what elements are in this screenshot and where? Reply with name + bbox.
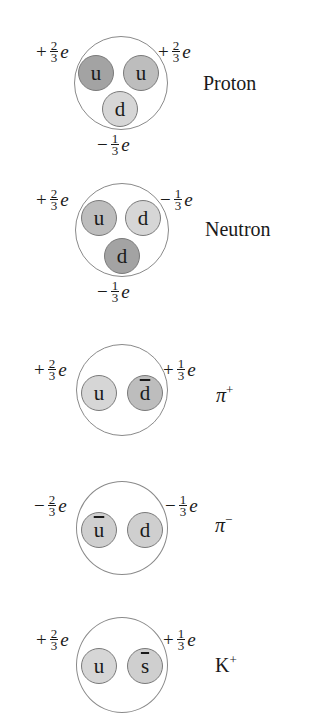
- particle-name: Neutron: [205, 218, 271, 241]
- charge-label: + 23 e: [34, 358, 67, 381]
- pi-minus-diagram: u d − 23 e − 13 e π−: [0, 450, 334, 580]
- k-plus-diagram: u s + 23 e + 13 e K+: [0, 580, 334, 724]
- quark-u: u: [123, 55, 159, 91]
- charge-label: + 13 e: [163, 358, 196, 381]
- quark-d: d: [104, 238, 140, 274]
- quark-anti-d: d: [127, 375, 163, 411]
- quark-d: d: [127, 512, 163, 548]
- neutron-diagram: u d d + 23 e − 13 e − 13 e Neutron: [0, 170, 334, 320]
- quark-d: d: [102, 91, 138, 127]
- charge-label: + 13 e: [163, 628, 196, 651]
- charge-label: + 23 e: [36, 628, 69, 651]
- charge-label: − 13 e: [160, 188, 193, 211]
- quark-u: u: [78, 55, 114, 91]
- quark-u: u: [81, 375, 117, 411]
- quark-u: u: [81, 200, 117, 236]
- pi-plus-diagram: u d + 23 e + 13 e π+: [0, 320, 334, 450]
- particle-name: π+: [216, 382, 233, 407]
- charge-label: + 23 e: [36, 40, 69, 63]
- charge-label: − 13 e: [97, 280, 130, 303]
- proton-diagram: u u d + 23 e + 23 e − 13 e Proton: [0, 0, 334, 170]
- particle-name: π−: [215, 512, 232, 537]
- particle-name: K+: [215, 652, 237, 677]
- charge-label: + 23 e: [158, 40, 191, 63]
- charge-label: + 23 e: [36, 188, 69, 211]
- quark-anti-s: s: [127, 648, 163, 684]
- charge-label: − 23 e: [34, 494, 67, 517]
- quark-d: d: [125, 200, 161, 236]
- quark-anti-u: u: [81, 512, 117, 548]
- particle-name: Proton: [203, 72, 256, 95]
- charge-label: − 13 e: [97, 133, 130, 156]
- quark-u: u: [81, 648, 117, 684]
- charge-label: − 13 e: [165, 494, 198, 517]
